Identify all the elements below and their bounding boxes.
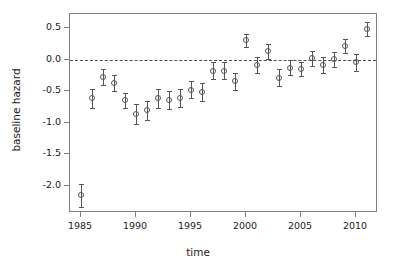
data-point-marker <box>166 97 172 103</box>
data-point-marker <box>199 89 205 95</box>
error-bar-cap-upper <box>178 89 183 90</box>
error-bar-cap-lower <box>343 53 348 54</box>
data-point-marker <box>232 78 238 84</box>
error-bar-cap-lower <box>222 79 227 80</box>
data-point-marker <box>188 87 194 93</box>
y-tick-label: -2.0 <box>23 179 61 190</box>
error-bar-cap-upper <box>189 81 194 82</box>
error-bar-cap-upper <box>299 62 304 63</box>
error-bar-cap-lower <box>233 90 238 91</box>
data-point-marker <box>342 43 348 49</box>
error-bar-cap-lower <box>101 85 106 86</box>
data-point-marker <box>155 95 161 101</box>
data-point-marker <box>353 59 359 65</box>
error-bar-cap-lower <box>365 36 370 37</box>
error-bar-cap-lower <box>189 98 194 99</box>
chart-figure: baseline hazard 0.50.0-0.5-1.0-1.5-2.0 1… <box>0 0 396 272</box>
error-bar-cap-lower <box>200 101 205 102</box>
error-bar-cap-upper <box>266 44 271 45</box>
x-tick-mark <box>245 212 246 217</box>
data-point-marker <box>210 68 216 74</box>
data-point-marker <box>100 74 106 80</box>
error-bar-cap-upper <box>365 22 370 23</box>
error-bar-cap-lower <box>321 73 326 74</box>
data-point-marker <box>331 56 337 62</box>
error-bar-cap-lower <box>123 108 128 109</box>
error-bar-cap-upper <box>167 91 172 92</box>
x-tick-label: 1985 <box>60 220 100 231</box>
error-bar-cap-upper <box>156 89 161 90</box>
data-point-marker <box>320 62 326 68</box>
error-bar-cap-lower <box>332 67 337 68</box>
plot-area <box>69 13 377 212</box>
y-axis-label: baseline hazard <box>10 50 22 170</box>
error-bar-cap-upper <box>222 62 227 63</box>
x-tick-mark <box>80 212 81 217</box>
error-bar-cap-upper <box>343 39 348 40</box>
data-point-marker <box>265 48 271 54</box>
error-bar-cap-upper <box>321 57 326 58</box>
data-point-marker <box>177 95 183 101</box>
error-bar-cap-upper <box>123 93 128 94</box>
x-axis-label: time <box>0 246 396 258</box>
error-bar-cap-upper <box>244 34 249 35</box>
error-bar-cap-lower <box>156 108 161 109</box>
x-tick-label: 2010 <box>335 220 375 231</box>
error-bar-cap-upper <box>255 57 260 58</box>
y-tick-label: -1.0 <box>23 116 61 127</box>
error-bar-cap-lower <box>178 107 183 108</box>
error-bar-cap-lower <box>288 75 293 76</box>
error-bar-cap-upper <box>145 101 150 102</box>
data-point-marker <box>254 62 260 68</box>
y-tick-label: -1.5 <box>23 147 61 158</box>
y-tick-label: 0.0 <box>23 53 61 64</box>
error-bar-cap-lower <box>79 207 84 208</box>
data-point-marker <box>122 97 128 103</box>
data-point-marker <box>221 68 227 74</box>
data-point-marker <box>133 111 139 117</box>
x-tick-mark <box>355 212 356 217</box>
error-bar-cap-lower <box>299 76 304 77</box>
error-bar-cap-upper <box>211 62 216 63</box>
error-bar-cap-lower <box>266 59 271 60</box>
data-point-marker <box>243 37 249 43</box>
error-bar-cap-upper <box>112 75 117 76</box>
data-point-marker <box>78 192 84 198</box>
y-tick-label: -0.5 <box>23 84 61 95</box>
error-bar-cap-upper <box>354 54 359 55</box>
error-bar-cap-upper <box>233 73 238 74</box>
error-bar-cap-lower <box>244 47 249 48</box>
x-tick-mark <box>135 212 136 217</box>
data-point-marker <box>144 107 150 113</box>
error-bar-cap-lower <box>255 73 260 74</box>
error-bar-cap-upper <box>332 52 337 53</box>
error-bar-cap-upper <box>310 51 315 52</box>
error-bar-cap-lower <box>90 108 95 109</box>
error-bar-cap-lower <box>354 71 359 72</box>
error-bar-cap-lower <box>112 91 117 92</box>
error-bar-cap-lower <box>145 120 150 121</box>
zero-reference-line <box>70 60 376 61</box>
x-tick-label: 1990 <box>115 220 155 231</box>
x-tick-mark <box>300 212 301 217</box>
data-point-marker <box>111 80 117 86</box>
error-bar-cap-lower <box>277 86 282 87</box>
data-point-marker <box>364 26 370 32</box>
x-tick-label: 2005 <box>280 220 320 231</box>
error-bar-cap-upper <box>90 89 95 90</box>
error-bar-cap-upper <box>134 104 139 105</box>
data-point-marker <box>298 66 304 72</box>
error-bar-cap-lower <box>211 79 216 80</box>
error-bar-cap-lower <box>134 124 139 125</box>
y-tick-label: 0.5 <box>23 21 61 32</box>
x-tick-label: 1995 <box>170 220 210 231</box>
error-bar-cap-lower <box>167 109 172 110</box>
error-bar-cap-upper <box>101 69 106 70</box>
error-bar-cap-lower <box>310 66 315 67</box>
data-point-marker <box>287 65 293 71</box>
error-bar-cap-upper <box>277 69 282 70</box>
error-bar-cap-upper <box>288 60 293 61</box>
error-bar-cap-upper <box>200 83 205 84</box>
error-bar-cap-upper <box>79 184 84 185</box>
data-point-marker <box>276 75 282 81</box>
